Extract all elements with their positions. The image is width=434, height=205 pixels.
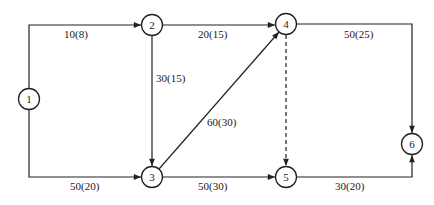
node-5: 5 [276, 167, 297, 188]
node-2: 2 [142, 15, 163, 36]
edge-label-1-3: 50(20) [70, 180, 100, 193]
node-1: 1 [19, 89, 40, 110]
node-4: 4 [276, 14, 297, 35]
node-label: 5 [283, 171, 289, 183]
edge-label-3-5: 50(30) [198, 180, 228, 193]
node-3: 3 [142, 167, 163, 188]
edge-label-1-2: 10(8) [64, 28, 88, 41]
network-diagram: 10(8) 20(15) 30(15) 50(25) 60(30) 50(20)… [0, 0, 434, 205]
node-6: 6 [402, 134, 423, 155]
edge-label-3-4: 60(30) [207, 116, 237, 129]
edge-3-4 [159, 32, 279, 169]
edge-4-6 [297, 24, 412, 133]
edge-label-2-3: 30(15) [156, 72, 186, 85]
node-label: 2 [149, 19, 155, 31]
node-label: 1 [26, 93, 32, 105]
edge-label-4-6: 50(25) [344, 28, 374, 41]
node-label: 4 [283, 18, 289, 30]
node-label: 3 [149, 171, 155, 183]
edge-label-2-4: 20(15) [198, 28, 228, 41]
node-label: 6 [409, 138, 415, 150]
edge-1-3 [29, 110, 141, 177]
edge-label-5-6: 30(20) [335, 180, 365, 193]
edge-5-6 [297, 155, 412, 177]
